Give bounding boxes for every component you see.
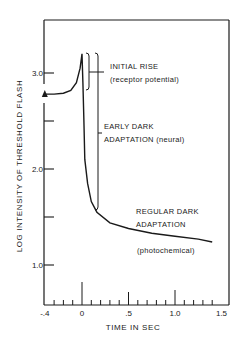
bracket-initial-rise [86,53,104,90]
annotation-initial-rise: INITIAL RISE [110,62,158,71]
y-axis-title: LOG INTENSITY OF THRESHOLD FLASH [15,80,24,253]
y-tick-label: 2.0 [32,165,44,174]
x-axis-ticks: -.40.51.01.5 [40,282,227,318]
y-tick-label: 1.0 [32,261,44,270]
chart: 1.02.03.0 -.40.51.01.5 INITIAL RISE (rec… [0,0,243,343]
bracket-early-dark-adaptation [95,53,102,210]
x-tick-label: 0 [80,309,85,318]
x-tick-label: 1.5 [216,309,228,318]
y-tick-label: 3.0 [32,69,44,78]
annotation-receptor-potential: (receptor potential) [110,75,179,84]
annotation-adaptation: ADAPTATION [136,220,186,229]
annotation-photochemical: (photochemical) [137,246,195,255]
x-tick-label: -.4 [40,309,50,318]
annotation-regular-dark: REGULAR DARK [136,207,199,216]
annotation-adaptation-neural: ADAPTATION (neural) [104,135,185,144]
y-axis-ticks: 1.02.03.0 [32,69,54,270]
x-tick-label: .5 [125,309,132,318]
x-axis-title: TIME IN SEC [106,323,161,332]
annotation-early-dark: EARLY DARK [104,122,154,131]
x-tick-label: 1.0 [169,309,181,318]
